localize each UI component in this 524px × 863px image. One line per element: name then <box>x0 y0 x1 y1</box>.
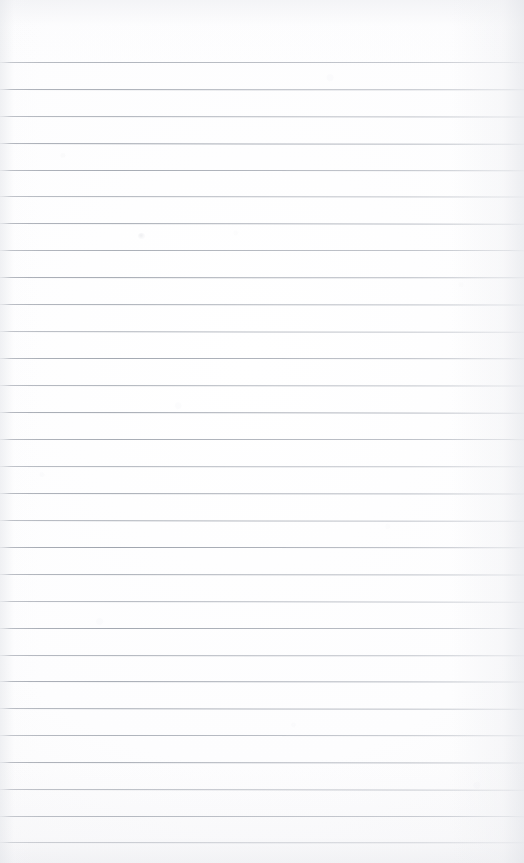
notepad-page <box>0 0 524 863</box>
paper-background <box>0 0 524 863</box>
